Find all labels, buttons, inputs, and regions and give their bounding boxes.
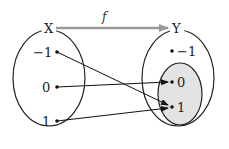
mapping-arrow: [57, 82, 168, 87]
range-set-ellipse: [158, 63, 202, 125]
codomain-element: 1: [177, 100, 185, 115]
mapping-arrow: [57, 108, 168, 121]
domain-element: 0: [42, 80, 50, 95]
function-diagram: f X Y −1 0 1 −1 0 1: [0, 0, 229, 149]
function-label: f: [101, 10, 109, 24]
mapping-arrow: [57, 52, 168, 105]
codomain-label: Y: [171, 21, 181, 36]
codomain-element: −1: [177, 44, 196, 59]
codomain-element: 0: [177, 75, 185, 90]
domain-element: −1: [33, 45, 52, 60]
domain-element: 1: [42, 114, 50, 129]
domain-label: X: [44, 21, 54, 36]
